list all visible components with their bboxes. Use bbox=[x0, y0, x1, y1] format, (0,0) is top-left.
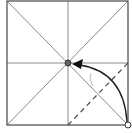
source-point bbox=[125, 122, 131, 128]
fold-arrow bbox=[80, 65, 127, 122]
arrow-head-icon bbox=[72, 59, 83, 69]
hint-mark bbox=[90, 73, 93, 86]
target-point bbox=[65, 60, 71, 66]
origami-diagram bbox=[0, 0, 132, 133]
